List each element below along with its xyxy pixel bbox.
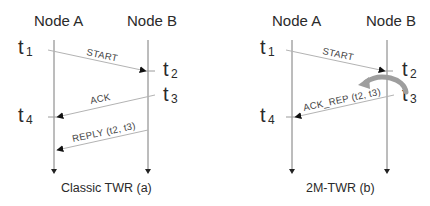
ack-message-label: ACK — [89, 91, 112, 106]
timestamp-t2: t 2 — [163, 58, 178, 81]
svg-text:t: t — [163, 83, 169, 105]
2m-twr-caption: 2M-TWR (b) — [306, 181, 375, 195]
svg-text:3: 3 — [410, 92, 417, 106]
svg-text:2: 2 — [410, 67, 417, 81]
svg-text:4: 4 — [268, 113, 275, 127]
timestamp-t1: t 1 — [18, 36, 33, 59]
classic-twr-caption: Classic TWR (a) — [61, 181, 152, 195]
node-a-label: Node A — [272, 12, 321, 29]
node-a-end-arrow-icon — [289, 169, 295, 174]
svg-text:t: t — [163, 58, 169, 80]
svg-text:1: 1 — [26, 45, 33, 59]
svg-text:t: t — [260, 104, 266, 126]
ack-rep-message-label: ACK_REP (t2, t3) — [302, 86, 382, 113]
timestamp-t2: t 2 — [402, 58, 417, 81]
start-message-label: START — [322, 45, 355, 62]
node-b-label: Node B — [127, 12, 177, 29]
svg-text:2: 2 — [171, 67, 178, 81]
reply-message-label: REPLY (t2, t3) — [71, 120, 136, 144]
node-b-label: Node B — [366, 12, 416, 29]
svg-text:4: 4 — [26, 113, 33, 127]
2m-twr-diagram: Node A Node B t 1 t 2 t 3 t 4 START — [260, 12, 417, 195]
svg-text:t: t — [18, 36, 24, 58]
svg-text:t: t — [260, 36, 266, 58]
svg-text:t: t — [18, 104, 24, 126]
node-b-end-arrow-icon — [384, 169, 390, 174]
svg-text:3: 3 — [171, 92, 178, 106]
timestamp-t4: t 4 — [18, 104, 33, 127]
twr-comparison-diagram: Node A Node B t 1 t 2 t 3 t 4 START ACK — [0, 0, 430, 206]
node-a-end-arrow-icon — [51, 169, 57, 174]
classic-twr-diagram: Node A Node B t 1 t 2 t 3 t 4 START ACK — [18, 12, 178, 195]
timestamp-t4: t 4 — [260, 104, 275, 127]
svg-text:1: 1 — [268, 45, 275, 59]
timestamp-t3: t 3 — [163, 83, 178, 106]
svg-text:t: t — [402, 58, 408, 80]
start-message-label: START — [86, 46, 119, 63]
timestamp-t1: t 1 — [260, 36, 275, 59]
node-a-label: Node A — [34, 12, 83, 29]
node-b-end-arrow-icon — [145, 169, 151, 174]
